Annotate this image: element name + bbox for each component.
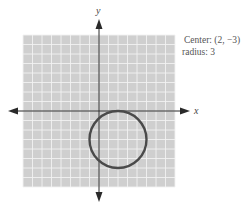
x-axis-right-arrow-icon: [180, 108, 190, 115]
y-axis-top-arrow-icon: [96, 19, 103, 29]
caption: Center: (2, −3) radius: 3: [184, 34, 240, 58]
coordinate-plane-figure: x y Center: (2, −3) radius: 3: [0, 0, 248, 206]
x-axis-label: x: [193, 105, 199, 116]
radius-text: radius: 3: [182, 46, 240, 58]
coordinate-plane: x y: [0, 0, 248, 206]
center-text: Center: (2, −3): [184, 34, 240, 46]
y-axis-label: y: [95, 5, 101, 16]
y-axis-bottom-arrow-icon: [96, 192, 103, 202]
x-axis-left-arrow-icon: [8, 108, 18, 115]
